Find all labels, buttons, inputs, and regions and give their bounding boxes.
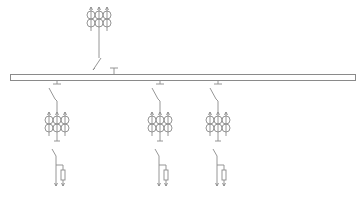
outgoing-feeders — [45, 81, 230, 187]
current-transformer-group-icon — [206, 112, 230, 136]
earthing-switch-icon — [213, 149, 217, 156]
surge-arrester-icon — [222, 170, 226, 180]
single-line-diagram — [0, 0, 363, 206]
main-busbar — [11, 75, 356, 81]
current-transformer-group-icon — [45, 112, 69, 136]
current-transformer-group-icon — [87, 7, 111, 31]
disconnector-switch-blade — [55, 99, 57, 101]
outgoing-feeder-2 — [148, 81, 172, 187]
surge-arrester-icon — [164, 170, 168, 180]
incoming-feeder — [87, 7, 118, 75]
earthing-switch-icon — [52, 149, 56, 156]
surge-arrester-icon — [61, 170, 65, 180]
disconnector-switch-icon — [210, 88, 216, 99]
current-transformer-group-icon — [148, 112, 172, 136]
earthing-switch-icon — [155, 149, 159, 156]
outgoing-feeder-3 — [206, 81, 230, 187]
disconnector-switch-blade — [158, 99, 160, 101]
disconnector-switch-blade — [216, 99, 218, 101]
outgoing-feeder-1 — [45, 81, 69, 187]
disconnector-switch-icon — [49, 88, 55, 99]
disconnector-switch-icon — [152, 88, 158, 99]
